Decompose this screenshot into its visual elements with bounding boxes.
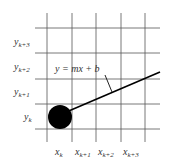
y-axis-labels: yk+3 yk+2 yk+1 yk bbox=[13, 36, 32, 124]
x-label: xk+1 bbox=[74, 146, 91, 159]
x-label: xk bbox=[54, 146, 63, 159]
y-label: yk+3 bbox=[13, 36, 30, 49]
x-label: xk+2 bbox=[97, 146, 114, 159]
pixel-grid-diagram: y = mx + b yk+3 yk+2 yk+1 yk xk xk+1 xk+… bbox=[0, 0, 172, 167]
start-pixel-point bbox=[48, 105, 72, 129]
x-label: xk+3 bbox=[122, 146, 139, 159]
y-label: yk+2 bbox=[13, 61, 30, 74]
equation-pointer bbox=[105, 75, 112, 92]
equation-label: y = mx + b bbox=[54, 63, 100, 74]
y-label: yk bbox=[23, 111, 32, 124]
y-label: yk+1 bbox=[13, 86, 30, 99]
line-segment bbox=[64, 72, 160, 113]
x-axis-labels: xk xk+1 xk+2 xk+3 bbox=[54, 146, 139, 159]
